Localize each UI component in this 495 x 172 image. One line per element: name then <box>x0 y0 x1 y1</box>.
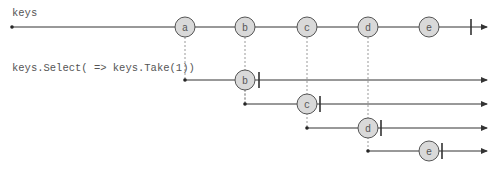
marble-a-label: a <box>182 23 188 34</box>
marble-c-label: c <box>304 23 310 34</box>
inner-marble-d-label: d <box>365 124 371 135</box>
marble-e: e <box>419 17 439 37</box>
marble-b-label: b <box>242 23 248 34</box>
marble-e-label: e <box>426 23 432 34</box>
inner-stream-4: e <box>366 141 487 161</box>
marble-a: a <box>175 17 195 37</box>
source-timeline: a b c d e <box>10 17 487 37</box>
source-stream-label: keys <box>12 7 37 19</box>
inner-stream-1: b <box>183 70 487 104</box>
marble-d: d <box>358 17 378 37</box>
marble-c: c <box>297 17 317 37</box>
marble-b: b <box>235 17 255 37</box>
marble-diagram: keys a b c d e keys.Sel <box>0 0 495 172</box>
inner-marble-b-label: b <box>242 76 248 87</box>
inner-stream-2: c <box>243 94 487 114</box>
dashed-connectors <box>185 37 368 151</box>
result-stream-label: keys.Select( => keys.Take(1)) <box>12 62 195 74</box>
marble-d-label: d <box>365 23 371 34</box>
inner-marble-e-label: e <box>426 147 432 158</box>
inner-stream-3: d <box>305 118 487 138</box>
inner-marble-c-label: c <box>304 100 310 111</box>
